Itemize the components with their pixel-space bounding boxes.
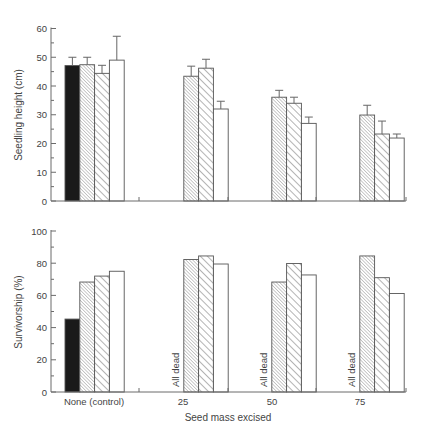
bar-coarse-hatch-75: [375, 278, 390, 392]
x-category-label: None (control): [64, 396, 124, 407]
survivorship-panel: All deadAll deadAll dead020406080100None…: [31, 226, 406, 408]
y-tick-label: 20: [36, 138, 47, 149]
y-tick-label: 40: [36, 322, 47, 333]
bar-coarse-hatch-50: [287, 103, 302, 201]
bar-white-50: [301, 275, 316, 392]
bar-fine-hatch-25: [184, 76, 199, 201]
all-dead-annotation: All dead: [346, 353, 357, 387]
bar-fine-hatch-none-control-: [80, 282, 95, 392]
y-tick-label: 0: [42, 196, 47, 207]
all-dead-annotation: All dead: [258, 353, 269, 387]
top-y-axis-title: Seedling height (cm): [13, 69, 24, 161]
bar-fine-hatch-75: [360, 115, 375, 201]
bar-white-none-control-: [109, 271, 124, 392]
y-tick-label: 50: [36, 52, 47, 63]
bar-coarse-hatch-75: [375, 134, 390, 201]
y-tick-label: 0: [42, 387, 47, 398]
y-tick-label: 20: [36, 354, 47, 365]
bar-white-75: [389, 138, 404, 201]
bar-white-25: [213, 109, 228, 201]
y-tick-label: 60: [36, 23, 47, 34]
x-category-label: 75: [355, 396, 366, 407]
x-axis-title: Seed mass excised: [185, 412, 272, 423]
bar-white-50: [301, 123, 316, 201]
y-tick-label: 80: [36, 258, 47, 269]
bar-fine-hatch-75: [360, 256, 375, 392]
y-tick-label: 100: [31, 226, 47, 237]
bar-chart-figure: 0102030405060 All deadAll deadAll dead02…: [0, 0, 428, 433]
seedling-height-panel: 0102030405060: [36, 23, 406, 207]
bar-fine-hatch-50: [272, 282, 287, 392]
bar-white-75: [389, 293, 404, 392]
bottom-y-axis-title: Survivorship (%): [13, 275, 24, 348]
bar-coarse-hatch-50: [287, 264, 302, 392]
y-tick-label: 30: [36, 109, 47, 120]
bar-fine-hatch-none-control-: [80, 65, 95, 201]
all-dead-annotation: All dead: [170, 353, 181, 387]
bar-coarse-hatch-none-control-: [95, 73, 110, 201]
bar-solid-none-control-: [65, 66, 80, 201]
bar-fine-hatch-25: [184, 259, 199, 392]
bar-solid-none-control-: [65, 319, 80, 392]
bar-coarse-hatch-25: [199, 68, 214, 201]
bar-white-none-control-: [109, 60, 124, 201]
x-category-label: 25: [178, 396, 189, 407]
y-tick-label: 40: [36, 81, 47, 92]
x-category-label: 50: [267, 396, 278, 407]
bar-fine-hatch-50: [272, 97, 287, 201]
figure: 0102030405060 All deadAll deadAll dead02…: [0, 0, 428, 433]
y-tick-label: 10: [36, 167, 47, 178]
bar-coarse-hatch-25: [199, 256, 214, 392]
y-tick-label: 60: [36, 290, 47, 301]
bar-coarse-hatch-none-control-: [95, 276, 110, 392]
bar-white-25: [213, 264, 228, 392]
